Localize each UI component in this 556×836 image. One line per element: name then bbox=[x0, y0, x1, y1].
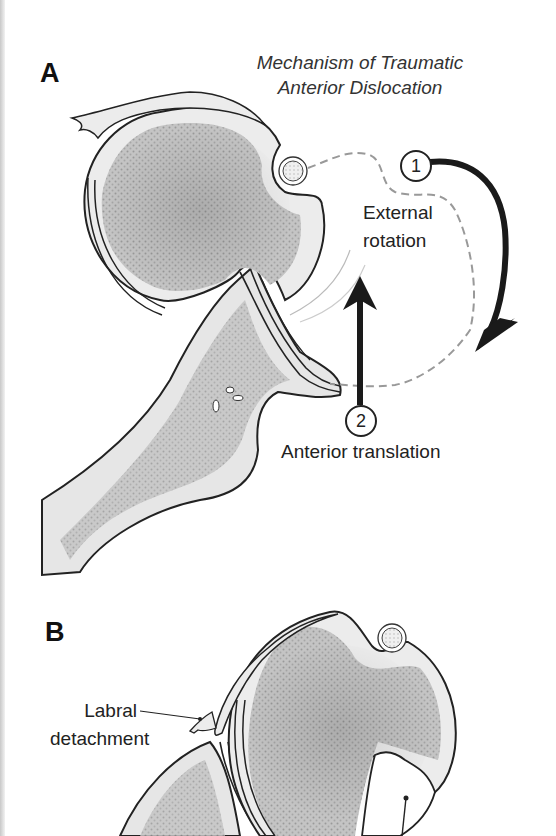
step-1-badge: 1 bbox=[400, 150, 432, 182]
panel-a-drawing bbox=[42, 92, 518, 575]
title-line-1: Mechanism of Traumatic bbox=[215, 50, 505, 75]
panel-b-drawing bbox=[120, 612, 456, 836]
external-rotation-label: External rotation bbox=[363, 202, 433, 252]
step-2-badge: 2 bbox=[345, 405, 377, 437]
title-line-2: Anterior Dislocation bbox=[215, 75, 505, 100]
figure-title: Mechanism of Traumatic Anterior Dislocat… bbox=[215, 50, 505, 100]
labral-detachment-line-2: detachment bbox=[50, 728, 149, 750]
labral-detachment-line-1: Labral bbox=[50, 700, 149, 722]
dislocated-path-outline bbox=[308, 153, 474, 386]
anterior-translation-label: Anterior translation bbox=[281, 441, 440, 463]
external-rotation-line-2: rotation bbox=[363, 230, 433, 252]
panel-label-a: A bbox=[40, 58, 60, 89]
labral-detachment-label: Labral detachment bbox=[50, 700, 149, 750]
panel-label-b: B bbox=[45, 617, 65, 648]
external-rotation-line-1: External bbox=[363, 202, 433, 224]
